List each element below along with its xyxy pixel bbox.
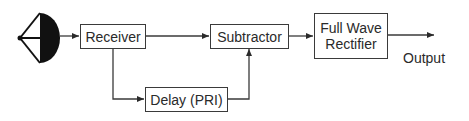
full-wave-rectifier-block: Full Wave Rectifier: [314, 13, 388, 59]
delay-label: Delay (PRI): [150, 92, 222, 108]
diagram-canvas: [0, 0, 469, 121]
subtractor-label: Subtractor: [217, 29, 282, 45]
edge-receiver-delay: [113, 48, 144, 99]
receiver-block: Receiver: [80, 24, 146, 49]
rectifier-label-line1: Full Wave: [320, 20, 382, 36]
output-label: Output: [403, 50, 445, 66]
receiver-label: Receiver: [85, 29, 140, 45]
subtractor-block: Subtractor: [210, 24, 289, 49]
edge-delay-subtractor: [227, 49, 249, 99]
rectifier-label-line2: Rectifier: [325, 36, 376, 52]
delay-pri-block: Delay (PRI): [145, 87, 228, 112]
antenna-dish-icon: [18, 13, 61, 63]
